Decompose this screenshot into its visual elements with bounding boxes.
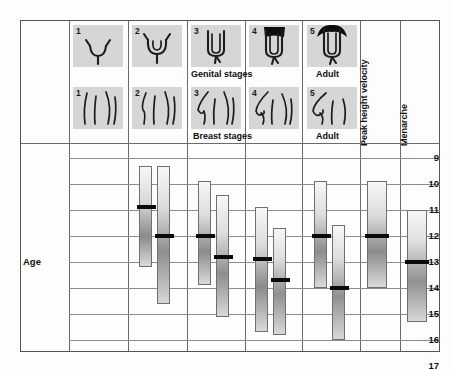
adult-genital-caption: Adult xyxy=(316,69,339,79)
bar-breast-stage-5 xyxy=(332,225,345,340)
age-label-17: 17 xyxy=(395,361,439,369)
median-breast-stage-4 xyxy=(271,278,290,282)
median-genital-stage-4 xyxy=(253,257,272,261)
genital-stage-1-panel: 1 xyxy=(73,25,123,67)
breast-stages-caption: Breast stages xyxy=(193,131,252,141)
age-label-16: 16 xyxy=(395,335,439,345)
genital-stage-5-number: 5 xyxy=(310,27,315,36)
median-genital-stage-2 xyxy=(137,205,156,209)
adult-breast-caption: Adult xyxy=(316,131,339,141)
genital-stages-caption: Genital stages xyxy=(191,69,253,79)
median-breast-stage-3 xyxy=(214,255,233,259)
genital-stage-5-panel: 5 xyxy=(307,25,357,67)
genital-stage-3-panel: 3 xyxy=(191,25,241,67)
breast-stage-3-number: 3 xyxy=(194,89,199,98)
genital-stage-4-number: 4 xyxy=(252,27,257,36)
column-divider-2 xyxy=(187,21,188,351)
age-label-9: 9 xyxy=(395,153,439,163)
breast-stage-1-panel: 1 xyxy=(73,87,123,129)
tanner-stages-figure: 1 2 3 xyxy=(0,0,453,369)
median-peak-height-velocity xyxy=(365,234,389,238)
genital-stage-1-number: 1 xyxy=(76,27,81,36)
breast-stage-4-number: 4 xyxy=(252,89,257,98)
breast-stage-4-panel: 4 xyxy=(249,87,299,129)
genital-stage-4-panel: 4 xyxy=(249,25,299,67)
column-divider-4 xyxy=(302,21,303,351)
age-label-10: 10 xyxy=(395,179,439,189)
genital-stage-2-number: 2 xyxy=(135,27,140,36)
median-breast-stage-2 xyxy=(155,234,174,238)
median-breast-stage-5 xyxy=(330,286,349,290)
age-axis-title: Age xyxy=(23,257,67,267)
chart-frame: 1 2 3 xyxy=(20,20,440,352)
breast-stage-3-panel: 3 xyxy=(191,87,241,129)
breast-stage-2-number: 2 xyxy=(135,89,140,98)
bar-genital-stage-4 xyxy=(255,207,268,332)
median-menarche xyxy=(405,260,429,264)
genital-stage-3-number: 3 xyxy=(194,27,199,36)
gridline-age-16 xyxy=(69,340,440,341)
column-divider-axis xyxy=(69,21,70,351)
peak-height-velocity-header: Peak height velocity xyxy=(359,59,369,146)
bar-genital-stage-3 xyxy=(198,181,211,285)
bar-genital-stage-2 xyxy=(139,166,152,267)
gridline-age-9 xyxy=(69,158,440,159)
median-genital-stage-5 xyxy=(312,234,331,238)
bar-menarche xyxy=(407,210,427,322)
breast-stage-2-panel: 2 xyxy=(132,87,182,129)
genital-stage-2-panel: 2 xyxy=(132,25,182,67)
breast-stage-1-number: 1 xyxy=(76,89,81,98)
picture-row-separator xyxy=(21,143,440,144)
menarche-header: Menarche xyxy=(399,104,409,146)
breast-stage-5-number: 5 xyxy=(310,89,315,98)
median-genital-stage-3 xyxy=(196,234,215,238)
breast-stage-5-panel: 5 xyxy=(307,87,357,129)
column-divider-1 xyxy=(128,21,129,351)
